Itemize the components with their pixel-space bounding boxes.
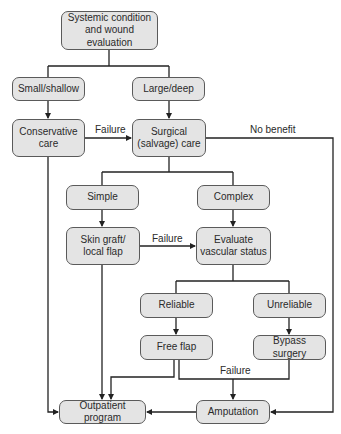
node-evaluate-vascular: Evaluate vascular status xyxy=(196,227,271,265)
node-outpatient-program: Outpatient program xyxy=(59,400,146,424)
node-small-shallow: Small/shallow xyxy=(12,77,85,101)
edge-label-failure-free-flap: Failure xyxy=(220,365,251,376)
node-complex: Complex xyxy=(197,185,270,210)
node-conservative-care: Conservative care xyxy=(12,119,85,157)
node-systemic-evaluation: Systemic condition and wound evaluation xyxy=(61,11,158,50)
connector-lines xyxy=(0,0,341,434)
node-reliable: Reliable xyxy=(140,293,213,318)
node-bypass-surgery: Bypass surgery xyxy=(253,335,326,360)
flowchart: Systemic condition and wound evaluation … xyxy=(0,0,341,434)
edge-label-failure-skin-graft: Failure xyxy=(152,233,183,244)
node-amputation: Amputation xyxy=(196,400,270,424)
node-free-flap: Free flap xyxy=(140,335,213,360)
node-surgical-care: Surgical (salvage) care xyxy=(132,119,206,157)
edge-label-no-benefit: No benefit xyxy=(250,124,296,135)
node-simple: Simple xyxy=(66,185,139,210)
node-unreliable: Unreliable xyxy=(253,293,326,318)
node-large-deep: Large/deep xyxy=(132,77,205,101)
node-skin-graft: Skin graft/ local flap xyxy=(66,227,140,265)
edge-label-failure-conservative: Failure xyxy=(95,124,126,135)
